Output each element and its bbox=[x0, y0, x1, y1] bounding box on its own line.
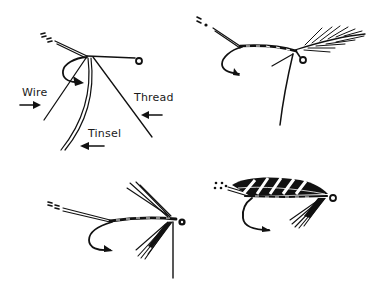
wire-arrow-icon bbox=[20, 101, 41, 109]
hackle-fibers-icon bbox=[290, 198, 326, 228]
tinsel-arrow-icon bbox=[80, 142, 104, 150]
tail-dashes-icon bbox=[48, 202, 59, 209]
panel-step-2 bbox=[197, 17, 365, 125]
tail-dashes-icon bbox=[197, 17, 208, 27]
hackle-fibers-icon bbox=[136, 222, 172, 259]
label-wire: Wire bbox=[22, 86, 48, 99]
label-tinsel: Tinsel bbox=[88, 127, 121, 140]
panel-step-3 bbox=[48, 182, 186, 278]
label-thread: Thread bbox=[134, 91, 174, 104]
striped-wing-icon bbox=[232, 177, 328, 196]
feather-hackle-icon bbox=[295, 26, 365, 52]
thread-arrow-icon bbox=[141, 111, 162, 119]
tail-dashes-icon bbox=[41, 33, 52, 42]
wing-fibers-icon bbox=[127, 182, 171, 217]
tail-dashes-icon bbox=[214, 182, 228, 190]
panel-step-4 bbox=[214, 177, 336, 232]
fly-tying-diagram: Wire Thread Tinsel bbox=[0, 0, 382, 300]
